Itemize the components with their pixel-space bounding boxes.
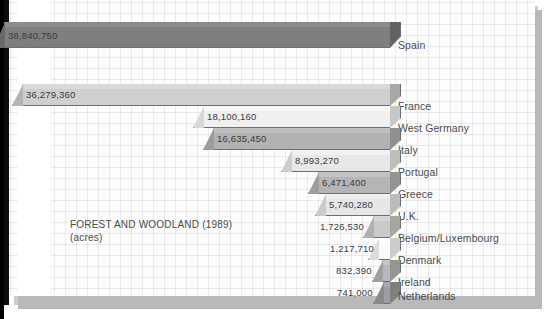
bar-spain	[4, 22, 390, 48]
bar-left-cap	[0, 22, 5, 48]
bar-category-label: Portugal	[398, 166, 438, 178]
bar-left-cap	[203, 128, 214, 150]
bar-top-face	[4, 22, 390, 27]
bar-left-cap	[193, 106, 204, 128]
bar-category-label: U.K.	[398, 210, 419, 222]
bar-left-cap	[315, 194, 326, 216]
bar-category-label: Denmark	[398, 254, 441, 266]
bar-france	[22, 84, 390, 106]
bar-left-cap	[372, 260, 383, 282]
bar-top-face	[382, 260, 390, 265]
bar-value-label: 1,217,710	[330, 243, 374, 254]
bar-left-cap	[308, 172, 319, 194]
bar-value-label: 6,471,400	[322, 177, 366, 188]
bar-top-face	[378, 238, 390, 243]
bar-value-label: 741,000	[337, 287, 373, 298]
bar-category-label: Greece	[398, 188, 433, 200]
chart-screenshot: 38,840,750Spain36,279,360France18,100,16…	[0, 0, 559, 319]
bar-value-label: 36,279,360	[26, 89, 76, 100]
bar-left-cap	[373, 282, 384, 304]
bar-value-label: 5,740,280	[329, 199, 373, 210]
bar-category-label: France	[398, 100, 431, 112]
bar-category-label: Belgium/Luxembourg	[398, 232, 499, 244]
bar-belgium-luxembourg	[373, 216, 390, 238]
bar-category-label: West Germany	[398, 122, 469, 134]
bar-top-face	[22, 84, 390, 89]
bar-value-label: 1,726,530	[320, 221, 364, 232]
bar-left-cap	[12, 84, 23, 106]
bar-value-label: 38,840,750	[8, 30, 58, 41]
bar-ireland	[382, 260, 390, 282]
bar-top-face	[383, 282, 390, 287]
bar-denmark	[378, 238, 390, 260]
chart-title: FOREST AND WOODLAND (1989) (acres)	[70, 219, 232, 244]
bar-value-label: 8,993,270	[295, 155, 339, 166]
bar-category-label: Spain	[398, 39, 425, 51]
bar-value-label: 18,100,160	[207, 111, 257, 122]
bar-top-face	[373, 216, 390, 221]
bar-left-cap	[363, 216, 374, 238]
bar-value-label: 16,635,450	[217, 133, 267, 144]
bar-left-cap	[281, 150, 292, 172]
bar-netherlands	[383, 282, 390, 304]
bar-category-label: Netherlands	[398, 290, 456, 302]
bar-category-label: Ireland	[398, 276, 431, 288]
bar-value-label: 832,390	[336, 265, 372, 276]
bars-layer: 38,840,750Spain36,279,360France18,100,16…	[0, 0, 559, 319]
